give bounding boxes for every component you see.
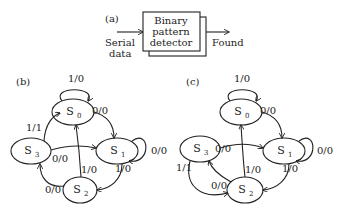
state-s3-label: S [24, 144, 32, 157]
edge-label-s0-s0: 1/0 [68, 73, 84, 84]
state-s0-label: S [234, 105, 242, 118]
state-s1-sub: 1 [121, 151, 125, 159]
edge-label-s2-s3: 0/0 [211, 180, 227, 191]
state-s2-sub: 2 [249, 190, 253, 198]
edge-label-s3-s0: 1/1 [26, 122, 42, 133]
input-label-serial: Serial [105, 37, 135, 48]
state-s2-sub: 2 [84, 190, 88, 198]
panel-c-label: (c) [186, 76, 200, 87]
edge-label-s0-s1: 0/0 [260, 105, 276, 116]
edge-label-s3-s1: 0/0 [52, 153, 68, 164]
edge-label-s0-s1: 0/0 [92, 105, 108, 116]
edge-label-s3-s2: 1/1 [176, 162, 192, 173]
detector-text-3: detector [150, 37, 193, 48]
edge-label-s3-s1: 0/0 [215, 143, 231, 154]
state-s3-sub: 3 [204, 149, 208, 157]
panel-c: (c) S 0 S 1 S 2 S 3 1/0 0/0 0/0 1/0 1/0 … [176, 73, 333, 203]
state-s0-sub: 0 [77, 112, 81, 120]
state-s0-label: S [66, 105, 74, 118]
edge-label-s0-s0: 1/0 [234, 73, 250, 84]
edge-label-s1-s2: 1/0 [282, 163, 298, 174]
state-s2-label: S [73, 183, 81, 196]
panel-a-label: (a) [105, 13, 119, 24]
state-s3-label: S [193, 142, 201, 155]
edge-label-s2-s3: 0/0 [45, 184, 61, 195]
detector-text-1: Binary [154, 15, 188, 26]
edge-label-s1-s2: 1/0 [115, 163, 131, 174]
edge-label-s1-s1: 0/0 [317, 145, 333, 156]
edge-s3-s1 [51, 146, 96, 150]
edge-s2-s3 [40, 164, 64, 186]
state-s1-label: S [277, 144, 285, 157]
panel-a: (a) Serial data Binary pattern detector … [105, 12, 244, 59]
panel-b: (b) S 0 S 1 S 2 S 3 1/0 0/0 0/0 1/0 1/0 … [11, 73, 167, 203]
edge-s2-s3 [209, 161, 231, 182]
edge-s3-s0 [44, 113, 60, 141]
detector-text-2: pattern [152, 26, 190, 37]
diagram-canvas: (a) Serial data Binary pattern detector … [0, 0, 344, 214]
input-label-data: data [109, 48, 131, 59]
state-s3-sub: 3 [35, 151, 39, 159]
state-s1-label: S [110, 144, 118, 157]
edge-label-s2-s0: 1/0 [245, 164, 261, 175]
state-s2-label: S [238, 183, 246, 196]
panel-b-label: (b) [16, 76, 30, 87]
state-s0-sub: 0 [245, 112, 249, 120]
state-s1-sub: 1 [288, 151, 292, 159]
edge-label-s1-s1: 0/0 [151, 145, 167, 156]
output-label: Found [212, 37, 244, 48]
edge-label-s2-s0: 1/0 [81, 164, 97, 175]
